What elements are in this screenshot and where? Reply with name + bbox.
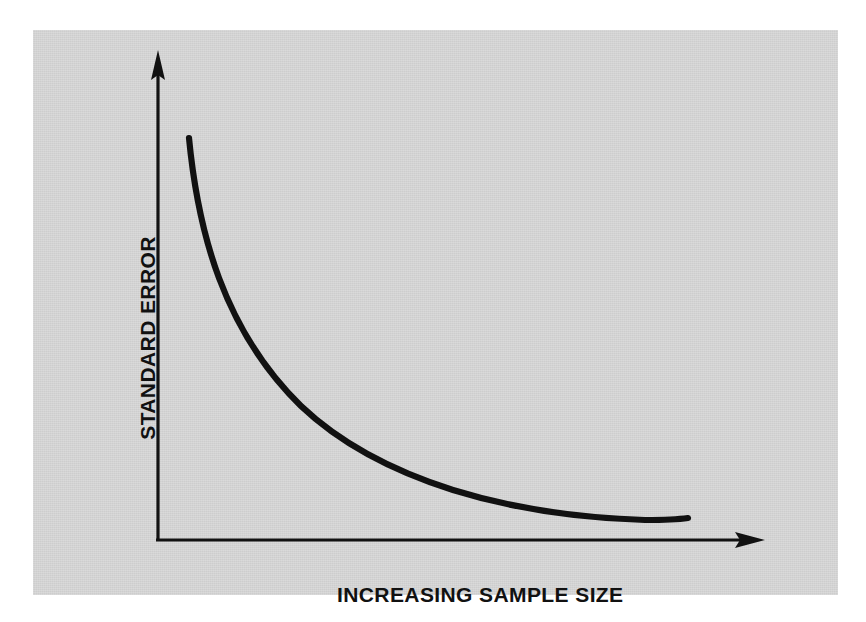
x-axis-title: INCREASING SAMPLE SIZE	[337, 583, 624, 607]
y-axis-title: STANDARD ERROR	[136, 236, 160, 440]
figure-root: STANDARD ERROR INCREASING SAMPLE SIZE	[0, 0, 866, 622]
chart-plate: STANDARD ERROR INCREASING SAMPLE SIZE	[33, 30, 838, 595]
caption-strip	[0, 607, 866, 622]
standard-error-curve	[189, 138, 688, 520]
